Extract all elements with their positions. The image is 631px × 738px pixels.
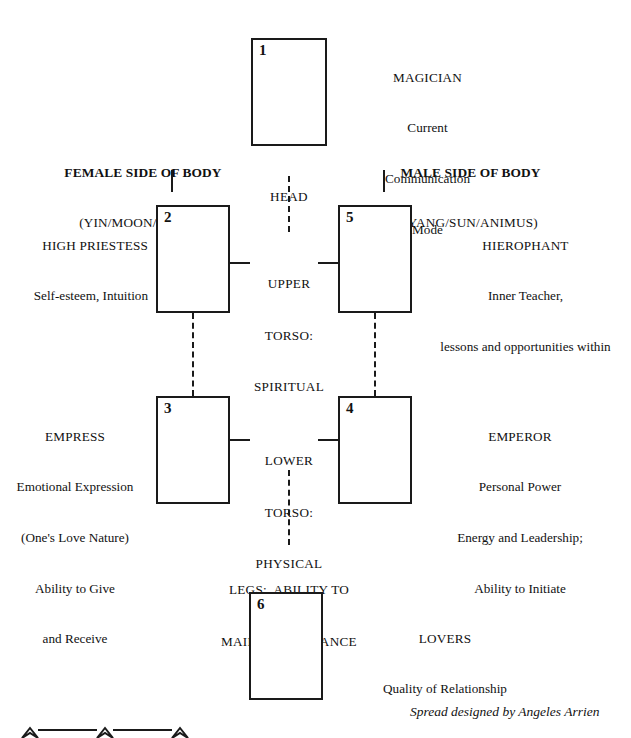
card-5-label-group: HIEROPHANT Inner Teacher, lessons and op… <box>420 204 631 390</box>
card-slot-6[interactable]: 6 <box>249 592 323 700</box>
decorative-border-ornament <box>0 722 631 738</box>
card-2-name: HIGH PRIESTESS <box>0 238 148 255</box>
body-zone-upper-torso-line-1: UPPER <box>238 275 340 292</box>
body-zone-upper-torso: UPPER TORSO: SPIRITUAL <box>238 241 340 430</box>
connector-head-to-upper-torso <box>288 176 290 232</box>
female-side-stem <box>171 170 173 192</box>
card-number-2: 2 <box>164 209 172 226</box>
card-number-4: 4 <box>346 400 354 417</box>
card-slot-1[interactable]: 1 <box>251 38 327 146</box>
card-slot-5[interactable]: 5 <box>338 205 412 313</box>
card-3-label-group: EMPRESS Emotional Expression (One's Love… <box>2 395 148 682</box>
card-4-meaning-line-2: Energy and Leadership; <box>420 530 620 547</box>
connector-card3-to-lower-torso <box>229 439 250 441</box>
ornament-band-icon <box>0 722 631 738</box>
card-number-6: 6 <box>257 596 265 613</box>
card-3-name: EMPRESS <box>2 429 148 446</box>
spread-credit: Spread designed by Angeles Arrien <box>410 704 599 720</box>
connector-card5-to-card4 <box>374 313 376 396</box>
card-4-meaning-line-1: Personal Power <box>420 479 620 496</box>
card-number-3: 3 <box>164 400 172 417</box>
tarot-spread-diagram: 1 MAGICIAN Current Communication Mode HE… <box>0 0 631 738</box>
card-slot-2[interactable]: 2 <box>156 205 230 313</box>
card-2-label-group: HIGH PRIESTESS Self-esteem, Intuition <box>0 204 148 339</box>
card-6-name: LOVERS <box>345 631 545 648</box>
card-5-meaning-line-1: Inner Teacher, <box>420 288 631 305</box>
card-3-meaning-line-3: Ability to Give <box>2 581 148 598</box>
card-5-name: HIEROPHANT <box>420 238 631 255</box>
card-2-meaning-line-1: Self-esteem, Intuition <box>0 288 148 305</box>
card-6-meaning-line-1: Quality of Relationship <box>345 681 545 698</box>
male-side-title: MALE SIDE OF BODY <box>368 164 573 181</box>
card-3-meaning-line-4: and Receive <box>2 631 148 648</box>
male-side-stem <box>383 170 385 192</box>
card-1-name: MAGICIAN <box>330 70 525 87</box>
connector-card5-to-upper-torso <box>318 262 339 264</box>
card-slot-3[interactable]: 3 <box>156 396 230 504</box>
card-4-name: EMPEROR <box>420 429 620 446</box>
body-zone-lower-torso-line-1: LOWER <box>238 452 340 469</box>
card-4-label-group: EMPEROR Personal Power Energy and Leader… <box>420 395 620 631</box>
card-slot-4[interactable]: 4 <box>338 396 412 504</box>
card-number-1: 1 <box>259 42 267 59</box>
female-side-title: FEMALE SIDE OF BODY <box>43 164 243 181</box>
card-number-5: 5 <box>346 209 354 226</box>
connector-card2-to-upper-torso <box>229 262 250 264</box>
card-4-meaning-line-3: Ability to Initiate <box>420 581 620 598</box>
connector-lower-torso-to-legs <box>288 470 290 545</box>
body-zone-upper-torso-line-2: TORSO: <box>238 327 340 344</box>
body-zone-upper-torso-line-3: SPIRITUAL <box>238 378 340 395</box>
card-5-meaning-line-2: lessons and opportunities within <box>420 339 631 356</box>
connector-card4-to-lower-torso <box>318 439 339 441</box>
connector-card2-to-card3 <box>192 313 194 396</box>
card-3-meaning-line-1: Emotional Expression <box>2 479 148 496</box>
card-3-meaning-line-2: (One's Love Nature) <box>2 530 148 547</box>
